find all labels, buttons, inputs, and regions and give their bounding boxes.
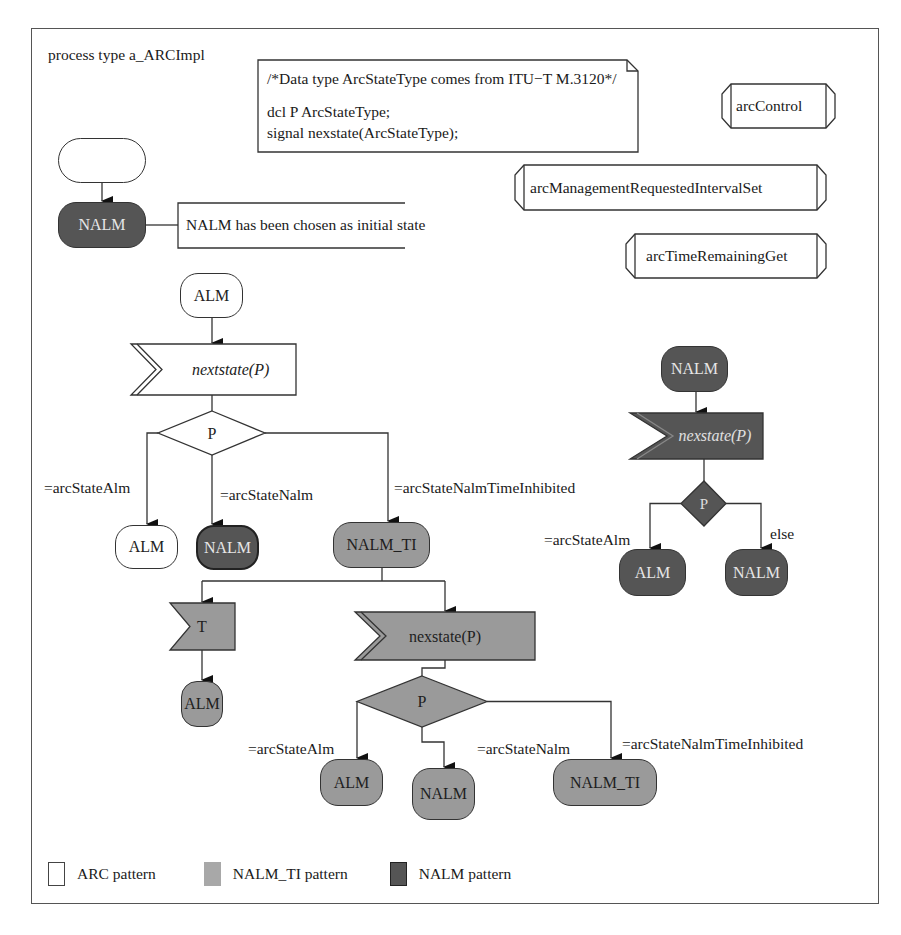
state-nalm-initial: NALM (58, 202, 146, 248)
ti-nextstate-nalm-ti: NALM_TI (553, 759, 657, 806)
initial-state-comment: NALM has been chosen as initial state (186, 217, 425, 233)
svg-text:P: P (700, 496, 708, 512)
svg-text:P: P (418, 693, 427, 710)
legend-item-arc: ARC pattern (48, 862, 156, 886)
legend-label-nalm: NALM pattern (419, 865, 512, 883)
ti-answer-arc-state-nalm-time-inhibited: =arcStateNalmTimeInhibited (622, 736, 803, 752)
nalm-nextstate-nalm: NALM (725, 549, 788, 596)
state-alm: ALM (180, 273, 243, 318)
state-nalm: NALM (661, 346, 728, 392)
nextstate-alm: ALM (115, 525, 178, 569)
nextstate-nalm: NALM (196, 525, 259, 570)
input-signal-label: nextstate(P) (192, 361, 269, 379)
start-symbol (58, 138, 146, 183)
declaration-comment: /*Data type ArcStateType comes from ITU−… (267, 70, 617, 88)
answer-arc-state-alm: =arcStateAlm (44, 480, 130, 496)
legend-item-nalm-ti: NALM_TI pattern (204, 862, 348, 886)
ti-answer-arc-state-nalm: =arcStateNalm (477, 741, 570, 757)
ti-nextstate-nalm: NALM (412, 768, 475, 820)
legend-item-nalm: NALM pattern (390, 862, 512, 886)
answer-arc-state-nalm: =arcStateNalm (220, 487, 313, 503)
declaration-dcl: dcl P ArcStateType; (267, 103, 390, 121)
nalm-answer-arc-state-alm: =arcStateAlm (544, 532, 630, 548)
svg-text:nexstate(P): nexstate(P) (679, 427, 752, 445)
legend-swatch-nalm-ti (204, 862, 221, 886)
ti-nextstate-alm: ALM (320, 759, 383, 806)
legend-swatch-arc (48, 862, 65, 886)
svg-text:T: T (197, 618, 207, 635)
declaration-signal: signal nexstate(ArcStateType); (267, 124, 458, 142)
procedure-arc-time-remaining-get: arcTimeRemainingGet (646, 248, 787, 264)
nalm-answer-else: else (770, 526, 794, 542)
svg-text:P: P (208, 425, 217, 442)
legend-swatch-nalm (390, 862, 407, 886)
state-nalm-ti: NALM_TI (333, 522, 430, 568)
svg-text:nexstate(P): nexstate(P) (409, 628, 481, 646)
sdl-process-diagram: process type a_ARCImpl (0, 0, 901, 935)
procedure-arc-control: arcControl (736, 98, 802, 114)
legend-label-nalm-ti: NALM_TI pattern (233, 865, 348, 883)
nalm-nextstate-alm: ALM (619, 549, 686, 596)
legend-label-arc: ARC pattern (77, 865, 156, 883)
timer-nextstate-alm: ALM (181, 681, 223, 727)
procedure-arc-management-requested-interval-set: arcManagementRequestedIntervalSet (530, 180, 762, 196)
legend: ARC pattern NALM_TI pattern NALM pattern (48, 862, 545, 886)
answer-arc-state-nalm-time-inhibited: =arcStateNalmTimeInhibited (394, 480, 575, 496)
ti-answer-arc-state-alm: =arcStateAlm (248, 741, 334, 757)
